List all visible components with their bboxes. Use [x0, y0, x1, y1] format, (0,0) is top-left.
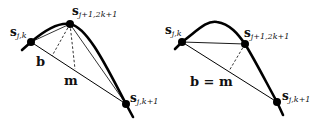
- right-point-end: [273, 98, 281, 106]
- right-label-b-equals-m: b = m: [190, 74, 233, 89]
- left-label-start: sj,k: [10, 25, 27, 40]
- right-label-end: sj,k+1: [282, 89, 310, 104]
- left-label-b: b: [36, 54, 45, 69]
- left-point-end: [122, 100, 130, 108]
- left-point-mid: [66, 20, 74, 28]
- left-label-m: m: [64, 73, 78, 88]
- left-dashed-perpendicular: [52, 24, 70, 56]
- left-chord-mid-end: [70, 24, 126, 104]
- right-label-start: sj,k: [165, 23, 182, 38]
- left-label-mid: sj+1,2k+1: [72, 4, 117, 19]
- right-diagram: sj,k sj+1,2k+1 sj,k+1 b = m: [165, 22, 310, 115]
- right-point-start: [178, 38, 186, 46]
- right-label-mid: sj+1,2k+1: [244, 26, 289, 41]
- left-point-start: [27, 38, 35, 46]
- left-curve: [22, 24, 133, 117]
- left-diagram: sj,k sj+1,2k+1 sj,k+1 b m: [10, 4, 158, 117]
- right-point-mid: [241, 40, 249, 48]
- right-chord-b: [182, 42, 277, 102]
- left-chord-start-mid: [31, 24, 70, 42]
- right-chord-start-mid: [182, 42, 245, 44]
- right-dashed-perpendicular: [229, 44, 245, 71]
- left-chord-b: [31, 42, 126, 104]
- left-label-end: sj,k+1: [130, 91, 158, 106]
